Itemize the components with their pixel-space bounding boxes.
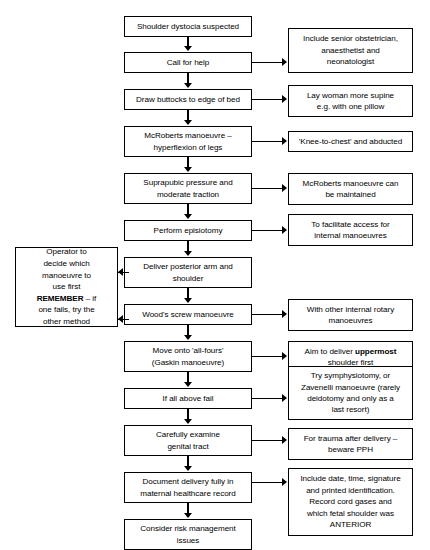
- note-lay-woman-supine: Lay woman more supine e.g. with one pill…: [288, 85, 413, 117]
- note-symphysiotomy-zavenelli: Try symphysiotomy, or Zavenelli manoeuvr…: [288, 366, 413, 420]
- side-note-l4: use first: [53, 282, 81, 291]
- connector-h-step11-note9: [252, 440, 283, 441]
- note-documentation-requirements: Include date, time, signature and printe…: [288, 468, 413, 536]
- scan-edge-artifact: [0, 0, 430, 9]
- side-note-l1: Operator to: [46, 247, 86, 256]
- arrowhead-right-note5: [282, 226, 287, 234]
- flowchart-canvas: Shoulder dystocia suspected Call for hel…: [0, 0, 430, 550]
- connector-h-step3-note2: [252, 99, 283, 100]
- flow-step-woods-screw-manoeuvre: Wood's screw manoeuvre: [124, 304, 252, 325]
- arrowhead-down-3-4: [184, 120, 192, 125]
- arrowhead-right-note8: [282, 394, 287, 402]
- flow-step-deliver-posterior-arm: Deliver posterior arm and shoulder: [124, 257, 252, 288]
- side-note-operator-decision: Operator to decide which manoeuvre to us…: [15, 247, 118, 327]
- flow-step-carefully-examine-genital-tract: Carefully examine genital tract: [124, 425, 252, 456]
- note-trauma-beware-pph: For trauma after delivery – beware PPH: [288, 428, 413, 460]
- arrowhead-right-note6: [282, 310, 287, 318]
- note-facilitate-internal-access: To facilitate access for internal manoeu…: [288, 214, 413, 246]
- connector-h-step10-note8: [252, 398, 283, 399]
- note-mcroberts-maintained: McRoberts manoeuvre can be maintained: [288, 173, 413, 205]
- connector-h-operator-lower-gap: [118, 319, 126, 320]
- note-internal-rotary-manoeuvres: With other internal rotary manoeuvres: [288, 299, 413, 331]
- flow-step-shoulder-dystocia-suspected: Shoulder dystocia suspected: [124, 16, 252, 37]
- note-uppermost-text: Aim to deliver uppermost shoulder first: [305, 346, 397, 369]
- flow-step-document-delivery: Document delivery fully in maternal heal…: [124, 472, 252, 503]
- flow-step-move-onto-all-fours: Move onto 'all-fours' (Gaskin manoeuvre): [124, 341, 252, 372]
- connector-h-step6-note5: [252, 230, 283, 231]
- arrowhead-down-2-3: [184, 83, 192, 88]
- arrowhead-down-12-13: [184, 513, 192, 518]
- arrowhead-right-note9: [282, 436, 287, 444]
- flow-step-call-for-help: Call for help: [124, 52, 252, 73]
- connector-h-step5-note4: [252, 188, 283, 189]
- arrowhead-down-9-10: [184, 382, 192, 387]
- arrowhead-down-8-9: [184, 335, 192, 340]
- arrowhead-right-note7: [282, 352, 287, 360]
- arrowhead-right-note2: [282, 95, 287, 103]
- connector-h-step12-note10: [252, 482, 283, 483]
- flow-step-perform-episiotomy: Perform episiotomy: [124, 220, 252, 241]
- note-uppermost-pre: Aim to deliver: [305, 347, 356, 356]
- note-uppermost-emphasis: uppermost: [355, 347, 396, 356]
- side-note-l6: other method: [43, 317, 90, 326]
- note-include-senior-staff: Include senior obstetrician, anaesthetis…: [288, 28, 413, 73]
- note-knee-to-chest-abducted: 'Knee-to-chest' and abducted: [288, 131, 413, 152]
- arrowhead-right-note1: [282, 58, 287, 66]
- connector-h-step9-note7: [252, 356, 283, 357]
- arrowhead-right-note4: [282, 184, 287, 192]
- connector-h-operator-upper-gap: [118, 272, 126, 273]
- side-note-text: Operator to decide which manoeuvre to us…: [37, 246, 97, 327]
- side-note-l5: one fails, try the: [38, 305, 94, 314]
- arrowhead-down-1-2: [184, 46, 192, 51]
- side-note-remember: REMEMBER: [37, 294, 84, 303]
- side-note-l3: manoeuvre to: [42, 271, 91, 280]
- arrowhead-right-note3: [282, 137, 287, 145]
- arrowhead-down-7-8: [184, 298, 192, 303]
- arrowhead-down-6-7: [184, 251, 192, 256]
- flow-step-draw-buttocks-to-edge-of-bed: Draw buttocks to edge of bed: [124, 89, 252, 110]
- connector-h-step2-note1: [252, 62, 283, 63]
- side-note-after-bold: – if: [84, 294, 97, 303]
- arrowhead-down-11-12: [184, 466, 192, 471]
- arrowhead-down-10-11: [184, 419, 192, 424]
- flow-step-if-all-above-fail: If all above fail: [124, 388, 252, 409]
- connector-h-step4-note3: [252, 141, 283, 142]
- connector-h-step8-note6: [252, 314, 283, 315]
- arrowhead-down-5-6: [184, 214, 192, 219]
- flow-step-suprapubic-pressure: Suprapubic pressure and moderate tractio…: [124, 173, 252, 204]
- side-note-l2: decide which: [43, 259, 89, 268]
- arrowhead-right-note10: [282, 478, 287, 486]
- arrowhead-down-4-5: [184, 167, 192, 172]
- flow-step-consider-risk-management: Consider risk management issues: [124, 519, 252, 550]
- flow-step-mcroberts-manoeuvre: McRoberts manoeuvre – hyperflexion of le…: [124, 126, 252, 157]
